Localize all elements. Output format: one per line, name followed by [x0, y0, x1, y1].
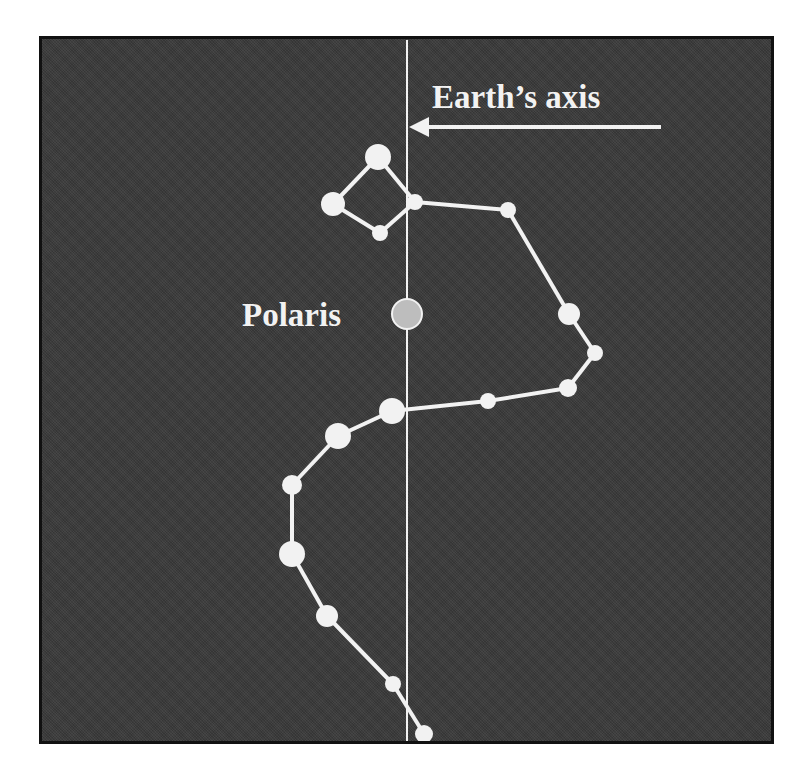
star	[385, 676, 401, 692]
star	[559, 379, 577, 397]
star	[325, 423, 351, 449]
star	[365, 144, 391, 170]
star	[372, 225, 388, 241]
star	[282, 475, 302, 495]
constellation-line	[488, 388, 568, 401]
star	[500, 202, 516, 218]
constellation-line	[508, 210, 569, 314]
star	[587, 345, 603, 361]
constellation-stars	[279, 144, 603, 743]
constellation-line	[327, 616, 393, 684]
axis-arrow	[409, 117, 661, 137]
star	[316, 605, 338, 627]
polaris-label: Polaris	[242, 297, 341, 333]
star	[480, 393, 496, 409]
star	[558, 303, 580, 325]
star	[379, 398, 405, 424]
constellation-line	[415, 202, 508, 210]
star	[321, 192, 345, 216]
star	[279, 541, 305, 567]
constellation-diagram: Earth’s axis Polaris	[0, 0, 812, 784]
earth-axis-label: Earth’s axis	[432, 79, 601, 115]
star	[415, 725, 433, 743]
star	[407, 194, 423, 210]
polaris-star	[392, 299, 422, 329]
